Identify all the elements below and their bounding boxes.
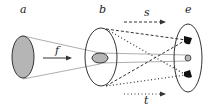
gray-dot-center — [185, 55, 191, 61]
beam-line-bottom — [100, 61, 188, 63]
label-a: a — [20, 3, 27, 16]
arrow-s-head-icon — [160, 20, 166, 25]
dashed-line-top — [106, 29, 186, 40]
label-t: t — [144, 94, 149, 106]
label-e: e — [185, 3, 192, 16]
label-s: s — [144, 6, 150, 19]
label-b: b — [99, 3, 106, 16]
black-dot-top — [184, 36, 192, 44]
label-f: f — [54, 44, 61, 57]
dotted-line-bottom — [106, 75, 186, 86]
arrow-f-head-icon — [66, 56, 72, 61]
diagram: a f b e s t — [0, 0, 211, 106]
inner-ellipse-b — [92, 53, 108, 63]
beam-line-top — [100, 53, 188, 55]
projection-line-bottom — [23, 64, 100, 79]
black-dot-bottom — [184, 70, 192, 78]
arrow-t-head-icon — [160, 92, 166, 97]
ellipse-a — [12, 36, 34, 78]
